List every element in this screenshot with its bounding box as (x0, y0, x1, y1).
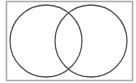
venn-diagram (0, 0, 136, 83)
